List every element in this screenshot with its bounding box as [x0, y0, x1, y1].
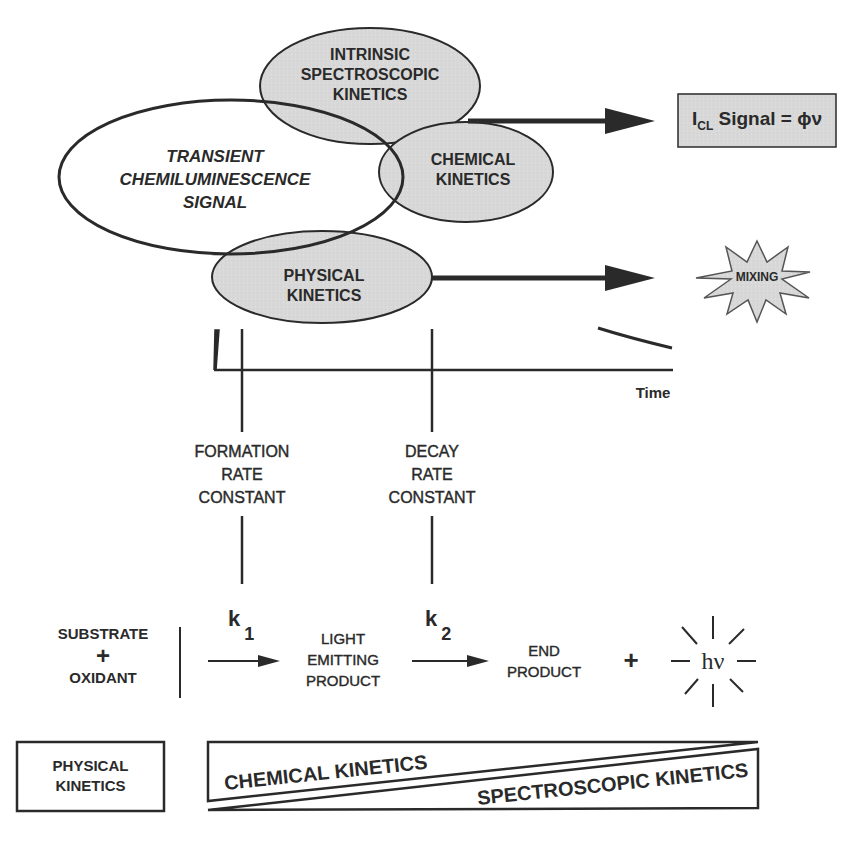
label-line: TRANSIENT: [90, 145, 340, 168]
photon-label: hν: [688, 647, 738, 675]
oxidant-text: OXIDANT: [40, 668, 166, 688]
intrinsic-spectroscopic-label: INTRINSIC SPECTROSCOPIC KINETICS: [278, 45, 462, 105]
label-line: CHEMICAL: [418, 150, 528, 170]
label-line: CONSTANT: [365, 486, 499, 509]
label-line: PHYSICAL: [264, 266, 384, 286]
substrate-text: SUBSTRATE: [40, 624, 166, 644]
plus-icon: +: [619, 646, 643, 674]
end-product-label: END PRODUCT: [494, 640, 594, 682]
k-symbol: k: [425, 606, 437, 631]
label-line: SIGNAL: [90, 191, 340, 214]
plus-icon: +: [40, 644, 166, 668]
cl-subscript: CL: [697, 119, 713, 133]
label-line: KINETICS: [418, 170, 528, 190]
label-line: KINETICS: [278, 85, 462, 105]
label-line: EMITTING: [283, 649, 403, 670]
k-subscript: 2: [441, 624, 451, 644]
k-symbol: k: [228, 606, 240, 631]
label-line: DECAY: [365, 440, 499, 463]
bottom-physical-kinetics-label: PHYSICAL KINETICS: [17, 756, 164, 796]
chemiluminescence-kinetics-diagram: CHEMICAL KINETICS SPECTROSCOPIC KINETICS…: [0, 0, 862, 851]
label-line: INTRINSIC: [278, 45, 462, 65]
time-axis-label: Time: [628, 384, 678, 402]
label-line: PHYSICAL: [17, 756, 164, 776]
label-line: RATE: [365, 463, 499, 486]
decay-rate-constant-label: DECAY RATE CONSTANT: [365, 440, 499, 509]
k1-label: k1: [228, 606, 268, 633]
label-line: LIGHT: [283, 628, 403, 649]
mixing-label: MIXING: [717, 270, 797, 284]
physical-kinetics-label: PHYSICAL KINETICS: [264, 266, 384, 306]
reactants-label: SUBSTRATE + OXIDANT: [40, 624, 166, 688]
label-line: RATE: [175, 463, 309, 486]
k-subscript: 1: [244, 624, 254, 644]
light-emitting-product-label: LIGHT EMITTING PRODUCT: [283, 628, 403, 691]
signal-formula: ICL Signal = ϕν: [678, 106, 836, 139]
signal-equation: Signal = ϕν: [713, 108, 822, 129]
label-line: PRODUCT: [494, 661, 594, 682]
formation-rate-constant-label: FORMATION RATE CONSTANT: [175, 440, 309, 509]
arrow-to-mixing-icon: [432, 265, 655, 291]
k1-arrow-icon: [208, 655, 280, 667]
label-line: SPECTROSCOPIC: [278, 65, 462, 85]
k2-label: k2: [425, 606, 465, 633]
label-line: PRODUCT: [283, 670, 403, 691]
label-line: CONSTANT: [175, 486, 309, 509]
label-line: KINETICS: [17, 776, 164, 796]
label-line: CHEMILUMINESCENCE: [90, 168, 340, 191]
chemical-kinetics-label: CHEMICAL KINETICS: [418, 150, 528, 190]
k2-arrow-icon: [412, 655, 489, 667]
time-axis: [214, 328, 673, 370]
label-line: KINETICS: [264, 286, 384, 306]
label-line: END: [494, 640, 594, 661]
label-line: FORMATION: [175, 440, 309, 463]
transient-signal-label: TRANSIENT CHEMILUMINESCENCE SIGNAL: [90, 145, 340, 214]
